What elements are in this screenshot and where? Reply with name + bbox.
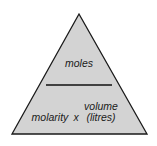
litres-label: (litres) bbox=[86, 111, 115, 123]
formula-triangle-diagram: moles molarity x volume (litres) bbox=[0, 0, 157, 146]
multiply-operator: x bbox=[72, 111, 79, 123]
moles-label: moles bbox=[65, 57, 94, 69]
molarity-label: molarity bbox=[32, 111, 70, 123]
